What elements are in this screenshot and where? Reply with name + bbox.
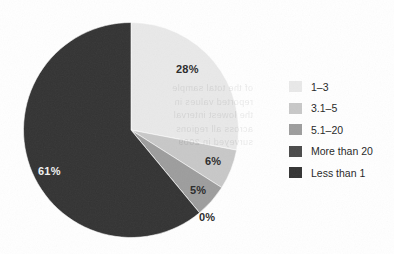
legend-item[interactable]: Less than 1 — [289, 162, 391, 184]
legend-label: Less than 1 — [311, 168, 365, 179]
pie-slice — [131, 23, 239, 151]
pie-slice-group — [23, 23, 238, 238]
legend-label: 5.1–20 — [311, 125, 343, 136]
legend-item[interactable]: 1–3 — [289, 76, 391, 98]
slice-label-5.1-20: 5% — [190, 184, 206, 196]
legend-label: 3.1–5 — [311, 103, 337, 114]
legend-swatch — [289, 81, 302, 92]
slice-label-3.1-5: 6% — [205, 155, 221, 167]
slice-label-1-3: 28% — [176, 63, 199, 75]
legend-swatch — [289, 103, 302, 114]
chart-legend: 1–33.1–55.1–20More than 20Less than 1 — [289, 76, 391, 184]
legend-swatch — [289, 146, 302, 157]
legend-label: More than 20 — [311, 146, 373, 157]
legend-item[interactable]: 5.1–20 — [289, 119, 391, 141]
pie-chart-plot-area: of the total samplereported values inthe… — [23, 22, 239, 238]
pie-chart-figure: of the total samplereported values inthe… — [0, 0, 394, 254]
legend-swatch — [289, 167, 302, 178]
pie-svg — [23, 22, 239, 238]
legend-swatch — [289, 124, 302, 135]
legend-item[interactable]: 3.1–5 — [289, 98, 391, 120]
slice-label-more-than-20: 0% — [199, 211, 215, 223]
slice-label-less-than-1: 61% — [38, 165, 61, 177]
legend-label: 1–3 — [311, 82, 329, 93]
legend-item[interactable]: More than 20 — [289, 141, 391, 163]
